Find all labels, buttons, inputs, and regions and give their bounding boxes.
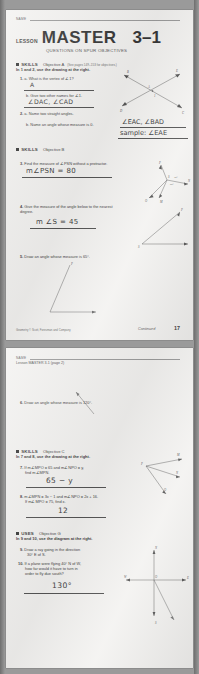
answer-line-1a: [24, 90, 94, 91]
question-2b-text: b. Name an angle whose measure is 0.: [26, 122, 93, 127]
answer-8[interactable]: 12: [58, 506, 68, 515]
answer-10[interactable]: 130°: [52, 581, 72, 590]
question-4-text: Give the measure of the angle below to t…: [20, 204, 113, 214]
answer-line-3: [22, 177, 112, 178]
scan-edge-right: [194, 0, 199, 674]
question-5: 5. Draw an angle whose measure is 65°.: [20, 254, 125, 259]
name-field-page1[interactable]: NAME: [16, 17, 182, 21]
question-2-number: 2.: [20, 111, 23, 116]
figure-label-N: N: [175, 471, 179, 475]
name-rule: [30, 20, 180, 21]
answer-7[interactable]: 65 − y: [46, 476, 73, 485]
figure-intersecting-lines: E B D C A 1: [114, 68, 192, 116]
answer-line-1b: [24, 107, 94, 108]
bullet-square-icon: [16, 450, 19, 453]
question-10: 10. If a plane were flying 40° N of W, h…: [18, 561, 118, 576]
answer-3[interactable]: m∠PSN = 80: [26, 167, 76, 175]
figure-multi-ray-angles: P S N O M 40° 60°: [141, 162, 193, 207]
question-7-number: 7.: [20, 465, 23, 470]
compass-origin: O: [155, 575, 158, 579]
box-answer-line-1[interactable]: ∠EAC, ∠BAD: [122, 118, 164, 126]
figure-label-B: B: [127, 70, 129, 74]
lesson-number: 3–1: [133, 30, 161, 46]
footer-copyright: Geometry © Scott, Foresman and Company: [16, 328, 71, 332]
section-objective: Objective B: [43, 147, 64, 152]
question-9-number: 9.: [20, 547, 23, 552]
question-6-number: 6.: [20, 400, 23, 405]
compass-label-W: W: [124, 575, 127, 579]
lesson-word: LESSON: [16, 38, 38, 44]
bullet-square-icon: [16, 532, 19, 535]
figure-label-C: C: [182, 111, 185, 115]
section-directions-c: In 7 and 8, use the drawing at the right…: [16, 454, 90, 459]
compass-label-S: S: [155, 621, 157, 625]
figure-angle-mark-1: 40°: [174, 176, 177, 179]
question-8-line2: If m∠MPO = 75, find x.: [25, 499, 130, 504]
section-header-skills-b: SKILLS Objective B: [16, 147, 64, 152]
question-7-line2: find m∠MPN.: [25, 470, 125, 475]
box-answer-line-2[interactable]: sample: ∠EAE: [120, 129, 167, 137]
answer-1b[interactable]: ∠DAC, ∠CAD: [28, 98, 73, 105]
figure-label-N: N: [187, 179, 191, 183]
figure-label-P: P: [140, 462, 143, 466]
question-5-number: 5.: [20, 254, 23, 259]
section-directions-a: In 1 and 2, use the drawing at the right…: [16, 67, 90, 72]
question-1-number: 1.: [20, 76, 23, 81]
figure-label-P: P: [158, 161, 161, 165]
answer-line-4: [30, 228, 96, 229]
lesson-title-row: LESSON MASTER 3–1: [16, 30, 186, 46]
question-3-number: 3.: [20, 161, 23, 166]
spur-subtitle: QUESTIONS ON SPUR OBJECTIVES: [46, 48, 127, 53]
question-2a-text: a. Name two straight angles.: [24, 111, 73, 116]
answer-line-7: [26, 487, 106, 488]
question-10-line3: order to fly due south?: [25, 571, 118, 576]
question-5-text: Draw an angle whose measure is 65°.: [24, 254, 90, 259]
question-4: 4. Give the measure of the angle below t…: [20, 204, 120, 214]
scan-edge-left: [0, 0, 5, 674]
figure-label-M: M: [159, 200, 163, 204]
figure-label-A: A: [147, 85, 150, 89]
student-drawing-65-degree-angle[interactable]: P: [38, 260, 108, 322]
drawing-label-endpoint: P: [70, 262, 73, 266]
compass-label-N: N: [154, 546, 158, 550]
figure-label-O: O: [164, 488, 167, 492]
figure-label-S-vertex: S: [138, 245, 140, 249]
footer-continued: Continued: [138, 327, 155, 331]
question-7: 7. If m∠MPO = 65 and m∠NPO = y, find m∠M…: [20, 465, 125, 475]
name-label: NAME: [16, 17, 26, 21]
figure-label-ray-end: P: [180, 208, 183, 212]
section-kind: SKILLS: [21, 147, 38, 152]
section-directions-g: In 9 and 10, use the diagram at the righ…: [16, 536, 92, 541]
answer-line-10: [24, 593, 104, 594]
bullet-square-icon: [16, 63, 19, 66]
question-8: 8. m∠MPN = 3x − 1 and m∠NPO = 2x + 16. I…: [20, 494, 130, 504]
page2-header: Lesson MASTER 3-1 (page 2): [16, 361, 64, 365]
question-8-number: 8.: [20, 494, 23, 499]
master-word: MASTER: [42, 30, 117, 46]
answer-1a[interactable]: A: [30, 81, 35, 88]
question-3: 3. Find the measure of ∠PSN without a pr…: [20, 161, 130, 166]
figure-label-D: D: [119, 109, 123, 113]
worksheet-page-2: NAME Lesson MASTER 3-1 (page 2) 6. Draw …: [6, 348, 193, 668]
question-9-line2: 30° E of S.: [27, 552, 120, 557]
name-field-page2[interactable]: NAME: [16, 356, 182, 360]
question-2b: b. Name an angle whose measure is 0.: [26, 122, 121, 127]
question-2a: 2. a. Name two straight angles.: [20, 111, 115, 116]
figure-label-M: M: [176, 453, 180, 457]
figure-compass-rose: N S E W O: [124, 544, 193, 630]
answer-line-8: [26, 517, 106, 518]
figure-label-O: O: [145, 199, 148, 203]
answer-4[interactable]: m ∠S = 45: [36, 218, 79, 226]
figure-rays-from-p: M N O P: [134, 450, 193, 505]
figure-label-1: 1: [154, 94, 156, 98]
box-answer-rule-2: [118, 138, 188, 139]
bullet-square-icon: [16, 148, 19, 151]
figure-angle-mark-2: 60°: [170, 183, 173, 186]
student-drawn-ray: [154, 580, 174, 620]
student-drawing-120-degree-angle[interactable]: [58, 366, 128, 436]
question-9: 9. Draw a ray going in the direction 30°…: [20, 547, 120, 557]
figure-angle-s: S P: [134, 206, 193, 252]
worksheet-page-1: NAME LESSON MASTER 3–1 QUESTIONS ON SPUR…: [6, 10, 193, 340]
question-10-number: 10.: [18, 561, 23, 566]
compass-label-E: E: [186, 576, 189, 580]
